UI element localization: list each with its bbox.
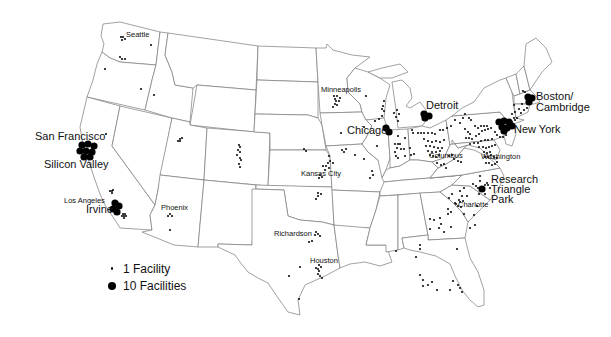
facility-dot [317,195,319,197]
facility-dot [336,104,338,106]
legend-item-ten-facilities: 10 Facilities [106,277,186,294]
facility-dot [484,184,486,186]
facility-dot [395,155,397,157]
facility-dot [459,122,461,124]
facility-cluster-dot [421,114,428,121]
facility-dot [494,131,496,133]
facility-dot [485,162,487,164]
facility-dot [288,275,290,277]
facility-dot [462,117,464,119]
facility-dot [468,137,470,139]
facility-dot [473,142,475,144]
facility-dot [236,154,238,156]
city-label: Charlotte [458,200,488,209]
city-label: Chicago [347,124,387,136]
city-label: Minneapolis [321,85,361,94]
facility-dot [332,162,334,164]
facility-dot [434,133,436,135]
facility-dot [518,108,520,110]
facility-dot [439,141,441,143]
facility-dot [121,39,123,41]
facility-dot [420,132,422,134]
facility-dot [478,146,480,148]
facility-dot [468,117,470,119]
facility-dot [439,129,441,131]
facility-dot [329,160,331,162]
facility-dot [478,133,480,135]
facility-dot [487,139,489,141]
facility-dot [319,275,321,277]
facility-dot [413,153,415,155]
facility-dot [496,161,498,163]
facility-dot [338,100,340,102]
facility-dot [457,160,459,162]
facility-dot [447,213,449,215]
facility-dot [487,184,489,186]
facility-dot [440,223,442,225]
facility-dot [417,132,419,134]
facility-dot [315,267,317,269]
facility-dot [317,273,319,275]
facility-dot [179,140,181,142]
facility-dot [479,180,481,182]
facility-dot [521,103,523,105]
facility-dot [463,187,465,189]
facility-dot [372,174,374,176]
facility-dot [466,195,468,197]
facility-dot [494,144,496,146]
facility-dot [484,139,486,141]
facility-dot [431,132,433,134]
facility-dot [479,175,481,177]
facility-dot [125,215,127,217]
facility-dot [478,193,480,195]
facility-dot [167,215,169,217]
facility-dot [445,167,447,169]
facility-dot [494,163,496,165]
facility-dot [124,213,126,215]
facility-dot [482,146,484,148]
facility-dot [343,151,345,153]
facility-dot [354,154,356,156]
facility-dot [483,125,485,127]
facility-dot [456,248,458,250]
facility-dot [396,109,398,111]
facility-dot [496,134,498,136]
facility-dot [443,139,445,141]
facility-dot [303,148,305,150]
facility-dot [397,120,399,122]
facility-dot [474,125,476,127]
facility-dot [365,95,367,97]
facility-dot [433,219,435,221]
facility-dot [119,56,121,58]
facility-dot [311,240,313,242]
state-south-dakota [255,80,318,118]
city-label: Silicon Valley [44,158,109,170]
facility-dot [488,162,490,164]
facility-dot [322,165,324,167]
facility-cluster-dot [478,185,485,192]
city-label: Houston [310,256,338,265]
facility-dot [314,234,316,236]
state-florida [402,235,484,307]
facility-dot [522,90,524,92]
facility-dot [378,118,380,120]
facility-dot [436,162,438,164]
facility-dot [520,112,522,114]
facility-dot [318,270,320,272]
facility-dot [321,277,323,279]
facility-dot [120,36,122,38]
facility-dot [237,149,239,151]
facility-dot [460,161,462,163]
facility-dot [404,155,406,157]
city-label: Park [491,193,514,205]
legend: 1 Facility 10 Facilities [106,260,186,294]
facility-dot [427,284,429,286]
city-label: San Francisco [35,130,105,142]
facility-dot [491,138,493,140]
facility-cluster-dot [500,127,507,134]
facility-dot [429,218,431,220]
facility-dot [140,88,142,90]
facility-dot [239,166,241,168]
facility-dot [446,127,448,129]
facility-dot [332,106,334,108]
